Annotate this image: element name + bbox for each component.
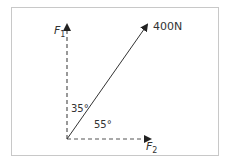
resultant-label: 400N <box>153 20 182 33</box>
f1-label: F1 <box>54 24 65 39</box>
angle-35-label: 35° <box>71 103 89 114</box>
force-diagram: F1 F2 400N 35° 55° <box>0 0 226 166</box>
f2-label: F2 <box>146 140 157 155</box>
angle-55-label: 55° <box>94 119 112 130</box>
